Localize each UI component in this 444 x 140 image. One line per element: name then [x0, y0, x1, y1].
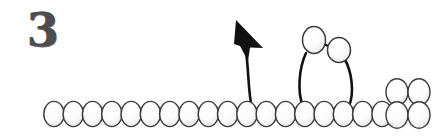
chain-bead — [198, 101, 218, 126]
chain-bead — [44, 101, 64, 126]
chain-bead — [121, 101, 141, 126]
chain-bead — [102, 101, 122, 126]
chain-bead — [179, 101, 199, 126]
cluster-bead — [408, 102, 430, 128]
chain-bead — [218, 101, 238, 126]
chain-bead — [275, 101, 295, 126]
cluster-bead — [386, 102, 408, 128]
figure-canvas: 3 — [0, 0, 444, 140]
chain-bead — [256, 101, 276, 126]
chain-bead — [82, 101, 102, 126]
loop-right-leg — [345, 60, 352, 106]
loop-bead-left — [303, 27, 326, 54]
chain-bead — [333, 101, 353, 126]
chain-bead — [140, 101, 160, 126]
loop-left-leg — [299, 53, 306, 106]
bead-chain — [44, 101, 393, 126]
chain-bead — [295, 101, 315, 126]
extrusion-arrow — [234, 20, 263, 108]
right-bead-cluster — [386, 79, 430, 128]
loop-bead-right — [328, 38, 351, 63]
diagram-illustration — [0, 0, 444, 140]
chain-bead — [237, 101, 257, 126]
chain-bead — [314, 101, 334, 126]
chain-bead — [353, 101, 373, 126]
arrow-head-icon — [234, 20, 263, 61]
chain-bead — [160, 101, 180, 126]
chain-bead — [63, 101, 83, 126]
arrow-shaft — [246, 52, 252, 108]
